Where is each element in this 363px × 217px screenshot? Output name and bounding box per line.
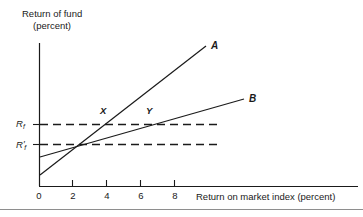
x-tick-label-6: 6 — [138, 191, 143, 202]
x-axis-title: Return on market index (percent) — [196, 192, 335, 203]
series-line-a — [40, 46, 206, 175]
y-tick-label-rf: Rf — [16, 119, 25, 130]
x-tick-label-2: 2 — [70, 191, 75, 202]
annotation-label-x: X — [100, 106, 106, 117]
bottom-divider — [0, 209, 363, 210]
y-tick-label-rf-prime-base: R — [16, 139, 23, 150]
y-axis-title-line1: Return of fund — [22, 9, 82, 20]
x-tick-label-4: 4 — [104, 191, 109, 202]
series-line-b — [40, 99, 244, 157]
y-tick-label-rf-prime: R′f — [16, 139, 26, 152]
figure-container: Return of fund (percent) Return on marke… — [0, 0, 363, 217]
y-tick-label-rf-subscript: f — [23, 123, 25, 130]
y-tick-label-rf-base: R — [16, 118, 23, 129]
x-axis-ticks — [73, 180, 175, 186]
x-tick-label-0: 0 — [36, 191, 41, 202]
chart-plot-area — [0, 0, 363, 217]
y-tick-label-rf-prime-subscript: f — [24, 144, 26, 151]
y-axis-title-line2: (percent) — [33, 21, 71, 32]
series-label-a: A — [211, 40, 218, 52]
annotation-label-y: Y — [146, 106, 152, 117]
x-tick-label-8: 8 — [172, 191, 177, 202]
series-label-b: B — [249, 93, 256, 105]
